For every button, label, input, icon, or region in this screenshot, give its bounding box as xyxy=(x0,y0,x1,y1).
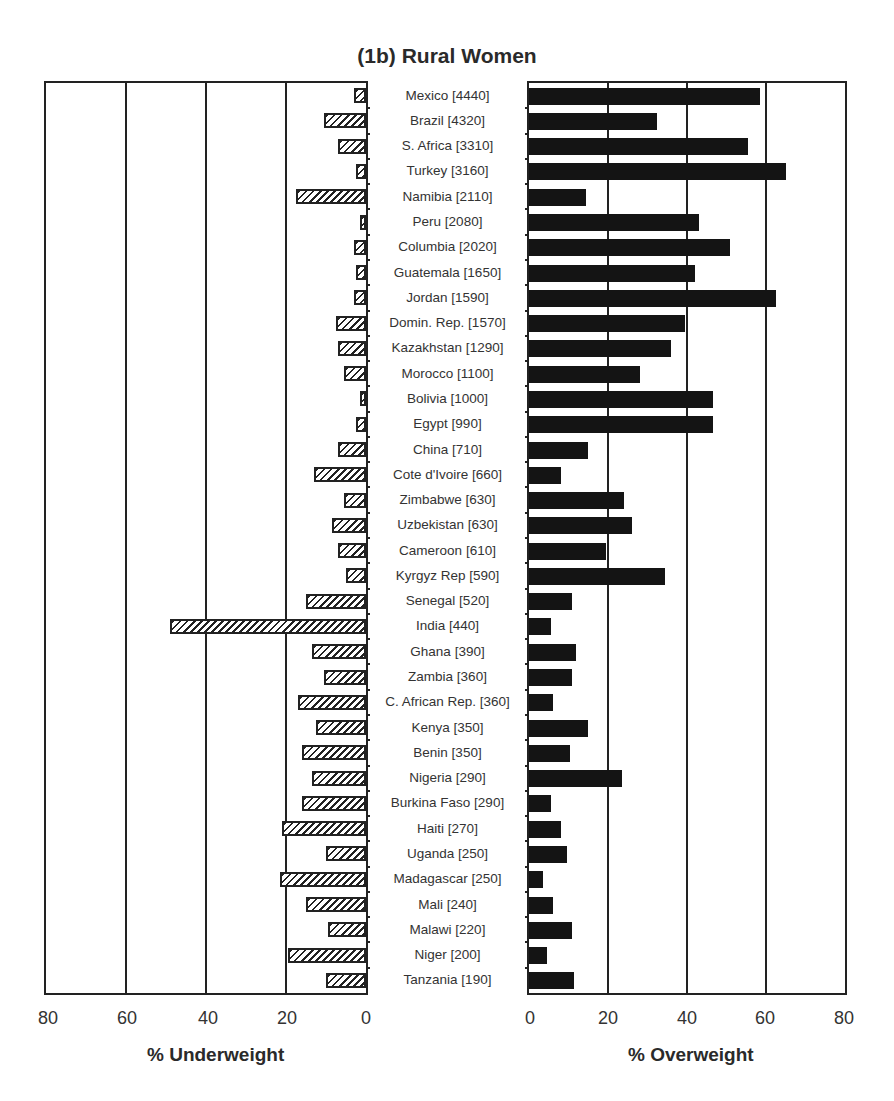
y-tick xyxy=(366,739,370,741)
underweight-bar xyxy=(356,417,366,432)
overweight-bar xyxy=(529,618,551,635)
underweight-bar xyxy=(280,872,366,887)
y-tick xyxy=(525,284,529,286)
underweight-bar xyxy=(332,518,366,533)
country-label: Domin. Rep. [1570] xyxy=(368,315,527,330)
underweight-bar xyxy=(328,922,366,937)
country-label: Turkey [3160] xyxy=(368,163,527,178)
country-label: Tanzania [190] xyxy=(368,972,527,987)
overweight-tick-label: 0 xyxy=(525,1008,535,1029)
underweight-bar xyxy=(306,897,366,912)
y-tick xyxy=(366,512,370,514)
y-tick xyxy=(366,234,370,236)
y-tick xyxy=(525,613,529,615)
overweight-bar xyxy=(529,340,671,357)
overweight-tick-label: 20 xyxy=(598,1008,618,1029)
underweight-bar xyxy=(344,366,366,381)
y-tick xyxy=(366,360,370,362)
underweight-bar xyxy=(306,594,366,609)
country-label: Egypt [990] xyxy=(368,416,527,431)
country-label: Morocco [1100] xyxy=(368,366,527,381)
y-tick xyxy=(525,866,529,868)
y-tick xyxy=(366,158,370,160)
y-tick xyxy=(366,967,370,969)
overweight-bar xyxy=(529,88,760,105)
country-label: Benin [350] xyxy=(368,745,527,760)
country-label: Senegal [520] xyxy=(368,593,527,608)
y-tick xyxy=(525,663,529,665)
y-tick xyxy=(525,588,529,590)
underweight-bar xyxy=(338,341,366,356)
gridline xyxy=(205,83,207,993)
overweight-bar xyxy=(529,113,657,130)
overweight-bar xyxy=(529,922,572,939)
y-tick xyxy=(525,638,529,640)
overweight-bar xyxy=(529,972,574,989)
overweight-bar xyxy=(529,720,588,737)
y-tick xyxy=(525,815,529,817)
underweight-tick-label: 20 xyxy=(277,1008,297,1029)
overweight-tick-label: 80 xyxy=(834,1008,854,1029)
y-tick xyxy=(366,259,370,261)
underweight-bar xyxy=(338,442,366,457)
y-tick xyxy=(366,385,370,387)
country-label: Zimbabwe [630] xyxy=(368,492,527,507)
y-tick xyxy=(366,208,370,210)
y-tick xyxy=(366,107,370,109)
y-tick xyxy=(366,183,370,185)
underweight-axis-title: % Underweight xyxy=(147,1044,284,1066)
underweight-bar xyxy=(170,619,366,634)
y-tick xyxy=(366,714,370,716)
overweight-bar xyxy=(529,265,695,282)
y-tick xyxy=(366,790,370,792)
overweight-tick-label: 60 xyxy=(755,1008,775,1029)
y-tick xyxy=(525,335,529,337)
country-label: Haiti [270] xyxy=(368,821,527,836)
country-label: Bolivia [1000] xyxy=(368,391,527,406)
underweight-bar xyxy=(302,796,366,811)
underweight-bar xyxy=(360,215,366,230)
country-label: Nigeria [290] xyxy=(368,770,527,785)
country-label: Guatemala [1650] xyxy=(368,265,527,280)
underweight-bar xyxy=(354,240,366,255)
overweight-bar xyxy=(529,669,572,686)
underweight-bar xyxy=(312,644,366,659)
y-tick xyxy=(366,310,370,312)
underweight-bar xyxy=(302,745,366,760)
y-tick xyxy=(366,436,370,438)
y-tick xyxy=(366,638,370,640)
y-tick xyxy=(525,840,529,842)
overweight-bar xyxy=(529,467,561,484)
country-label: Jordan [1590] xyxy=(368,290,527,305)
y-tick xyxy=(525,133,529,135)
y-tick xyxy=(366,562,370,564)
underweight-bar xyxy=(324,670,366,685)
underweight-bar xyxy=(344,493,366,508)
y-tick xyxy=(366,916,370,918)
gridline xyxy=(125,83,127,993)
underweight-bar xyxy=(356,164,366,179)
country-label: China [710] xyxy=(368,442,527,457)
overweight-bar xyxy=(529,593,572,610)
country-label: Niger [200] xyxy=(368,947,527,962)
y-tick xyxy=(525,234,529,236)
underweight-bar xyxy=(326,846,366,861)
underweight-bar xyxy=(298,695,366,710)
underweight-bar xyxy=(296,189,366,204)
y-tick xyxy=(525,739,529,741)
country-label: Mexico [4440] xyxy=(368,88,527,103)
y-tick xyxy=(525,259,529,261)
overweight-bar xyxy=(529,442,588,459)
y-tick xyxy=(525,941,529,943)
overweight-bar xyxy=(529,214,699,231)
y-tick xyxy=(366,613,370,615)
overweight-bar xyxy=(529,897,553,914)
overweight-bar xyxy=(529,543,606,560)
country-label: Malawi [220] xyxy=(368,922,527,937)
y-tick xyxy=(366,411,370,413)
overweight-bar xyxy=(529,770,622,787)
country-label: Mali [240] xyxy=(368,897,527,912)
underweight-tick-label: 60 xyxy=(117,1008,137,1029)
underweight-bar xyxy=(338,543,366,558)
overweight-bar xyxy=(529,644,576,661)
